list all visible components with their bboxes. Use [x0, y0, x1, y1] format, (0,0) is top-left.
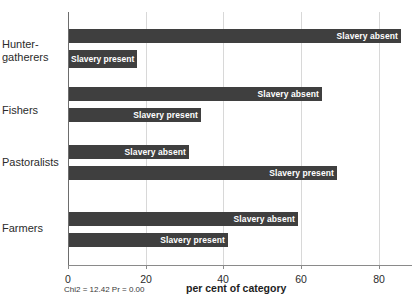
bar-fishers-slavery-present[interactable]: Slavery present [69, 108, 201, 122]
bar-value-label: Slavery absent [125, 147, 189, 157]
bar-value-label: Slavery present [269, 168, 337, 178]
bar-value-label: Slavery present [160, 235, 228, 245]
x-tick-label-20: 20 [140, 273, 152, 285]
bar-value-label: Slavery absent [258, 89, 322, 99]
bar-value-label: Slavery absent [234, 214, 298, 224]
category-label-pastoralists: Pastoralists [2, 156, 64, 169]
gridline-40 [223, 12, 224, 265]
x-tick-label-0: 0 [65, 273, 71, 285]
bar-value-label: Slavery present [133, 110, 201, 120]
gridline-60 [301, 12, 302, 265]
bar-pastoralists-slavery-present[interactable]: Slavery present [69, 166, 337, 180]
bar-hunter-gatherers-slavery-present[interactable]: Slavery present [69, 50, 125, 64]
x-tick-label-60: 60 [295, 273, 307, 285]
bar-value-label: Slavery absent [337, 31, 401, 41]
bar-hunter-gatherers-slavery-absent[interactable]: Slavery absent [69, 29, 401, 43]
category-label-fishers: Fishers [2, 104, 64, 117]
category-label-line-2: gatherers [2, 51, 64, 64]
gridline-20 [146, 12, 147, 265]
category-label-line-1: Pastoralists [2, 156, 64, 169]
chi-square-statistic: Chi2 = 12.42 Pr = 0.00 [64, 285, 145, 294]
x-axis-title: per cent of category [186, 282, 286, 294]
category-label-line-1: Farmers [2, 222, 64, 235]
plot-area: 0 20 40 60 80 Slavery absent Slavery pre… [68, 12, 408, 265]
category-label-farmers: Farmers [2, 222, 64, 235]
category-label-line-1: Fishers [2, 104, 64, 117]
bar-fishers-slavery-absent[interactable]: Slavery absent [69, 87, 322, 101]
tick-mark-80 [379, 265, 380, 269]
bar-chart: Hunter- gatherers Fishers Pastoralists F… [0, 0, 419, 304]
tick-mark-40 [223, 265, 224, 269]
category-label-hunter-gatherers: Hunter- gatherers [2, 38, 64, 63]
category-label-line-1: Hunter- [2, 38, 64, 51]
bar-farmers-slavery-absent[interactable]: Slavery absent [69, 212, 298, 226]
gridline-80 [379, 12, 380, 265]
bar-value-label: Slavery present [69, 50, 137, 68]
x-axis-line [68, 265, 412, 266]
bar-farmers-slavery-present[interactable]: Slavery present [69, 233, 228, 247]
tick-mark-0 [68, 265, 69, 269]
tick-mark-20 [146, 265, 147, 269]
bar-pastoralists-slavery-absent[interactable]: Slavery absent [69, 145, 189, 159]
tick-mark-60 [301, 265, 302, 269]
x-tick-label-80: 80 [373, 273, 385, 285]
